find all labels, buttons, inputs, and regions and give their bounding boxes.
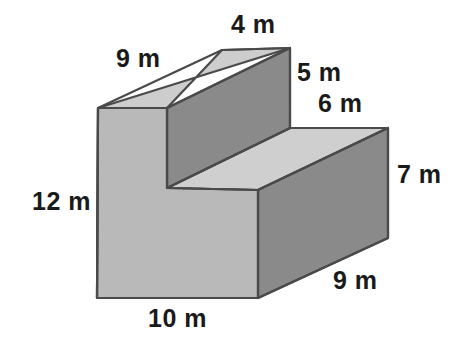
geometry-figure: 9 m 4 m 5 m 6 m 7 m 9 m 12 m 10 m: [0, 0, 470, 355]
dimension-label-top-back-width: 4 m: [231, 12, 276, 37]
dimension-label-bottom-right-depth: 9 m: [333, 268, 378, 293]
dimension-label-step-depth: 6 m: [318, 91, 363, 116]
dimension-label-left-height: 12 m: [32, 189, 91, 214]
dimension-label-upper-riser: 5 m: [297, 60, 342, 85]
dimension-label-right-height: 7 m: [397, 162, 442, 187]
dimension-label-top-left-depth: 9 m: [116, 46, 161, 71]
dimension-label-bottom-width: 10 m: [148, 306, 207, 331]
